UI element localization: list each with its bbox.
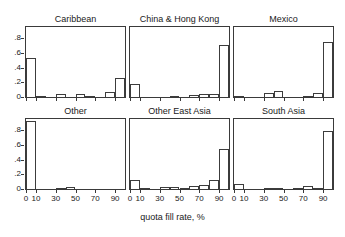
histogram-bar xyxy=(26,58,36,97)
histogram-bar xyxy=(130,180,140,189)
histogram-bar xyxy=(199,185,209,189)
bar-series xyxy=(234,27,333,97)
panel-title: South Asia xyxy=(233,106,334,117)
x-tick-mark xyxy=(56,190,57,193)
x-tick-mark xyxy=(26,190,27,193)
histogram-bar xyxy=(209,94,219,97)
x-tick-mark xyxy=(140,190,141,193)
x-tick-label: 0 xyxy=(24,194,28,203)
histogram-bar xyxy=(36,96,46,97)
histogram-bar xyxy=(234,184,244,189)
panel-title: Other xyxy=(25,106,126,117)
x-tick-mark xyxy=(76,98,77,101)
x-tick-label: 30 xyxy=(259,194,268,203)
histogram-bar xyxy=(189,95,199,97)
x-tick-mark xyxy=(244,190,245,193)
histogram-bar xyxy=(323,42,333,97)
x-tick-label: 90 xyxy=(215,194,224,203)
x-tick-mark xyxy=(323,190,324,193)
y-tick-label: .2 xyxy=(14,170,21,178)
x-axis-label: quota fill rate, % xyxy=(0,212,345,223)
x-tick-mark xyxy=(95,98,96,101)
x-tick-mark xyxy=(26,98,27,101)
x-tick-mark xyxy=(140,98,141,101)
y-tick-mark xyxy=(21,130,24,131)
panel-south-asia: South Asia01030507090 xyxy=(233,106,334,190)
y-tick-mark xyxy=(21,160,24,161)
x-tick-label: 70 xyxy=(195,194,204,203)
y-tick-label: .4 xyxy=(14,64,21,72)
x-tick-mark xyxy=(180,98,181,101)
x-tick-label: 70 xyxy=(299,194,308,203)
x-tick-mark xyxy=(160,190,161,193)
y-tick-mark xyxy=(21,174,24,175)
histogram-bar xyxy=(66,187,76,189)
x-tick-label: 90 xyxy=(111,194,120,203)
plot-area xyxy=(25,118,126,190)
x-tick-mark xyxy=(284,190,285,193)
histogram-bar xyxy=(199,94,209,97)
histogram-bar xyxy=(219,149,229,189)
y-tick-mark xyxy=(21,97,24,98)
x-tick-label: 0 xyxy=(232,194,236,203)
y-tick-label: .2 xyxy=(14,78,21,86)
y-tick-label: .8 xyxy=(14,34,21,42)
histogram-bar xyxy=(303,186,313,189)
histogram-bar xyxy=(56,94,66,97)
x-tick-mark xyxy=(95,190,96,193)
x-tick-label: 50 xyxy=(175,194,184,203)
histogram-bar xyxy=(274,188,284,189)
x-tick-label: 10 xyxy=(31,194,40,203)
histogram-bar xyxy=(293,188,303,189)
x-tick-label: 70 xyxy=(91,194,100,203)
y-tick-mark xyxy=(21,38,24,39)
y-tick-label: .6 xyxy=(14,49,21,57)
x-tick-mark xyxy=(199,98,200,101)
x-tick-mark xyxy=(219,190,220,193)
histogram-bar xyxy=(323,131,333,189)
bar-series xyxy=(26,27,125,97)
y-tick-mark xyxy=(21,68,24,69)
x-tick-mark xyxy=(264,98,265,101)
histogram-bar xyxy=(115,78,125,97)
histogram-bar xyxy=(170,187,180,189)
x-tick-label: 50 xyxy=(71,194,80,203)
x-tick-mark xyxy=(130,98,131,101)
panel-title: Caribbean xyxy=(25,14,126,25)
x-tick-mark xyxy=(219,98,220,101)
y-axis: 0.2.4.6.8 xyxy=(6,118,24,190)
x-tick-label: 90 xyxy=(319,194,328,203)
bar-series xyxy=(130,119,229,189)
histogram-bar xyxy=(105,92,115,97)
x-tick-label: 30 xyxy=(155,194,164,203)
x-tick-mark xyxy=(56,98,57,101)
histogram-bar xyxy=(26,121,36,189)
histogram-bar xyxy=(56,188,66,189)
x-tick-mark xyxy=(264,190,265,193)
x-tick-mark xyxy=(180,190,181,193)
bar-series xyxy=(26,119,125,189)
bar-series xyxy=(130,27,229,97)
x-tick-label: 10 xyxy=(239,194,248,203)
panel-mexico: Mexico xyxy=(233,14,334,98)
y-tick-mark xyxy=(21,189,24,190)
histogram-bar xyxy=(189,186,199,189)
panel-other: Other010305070900.2.4.6.8 xyxy=(25,106,126,190)
plot-area xyxy=(233,118,334,190)
plot-area xyxy=(129,26,230,98)
x-tick-mark xyxy=(244,98,245,101)
x-tick-mark xyxy=(199,190,200,193)
histogram-bar xyxy=(130,84,140,97)
histogram-bar xyxy=(274,91,284,97)
x-tick-mark xyxy=(130,190,131,193)
x-tick-label: 10 xyxy=(135,194,144,203)
histogram-bar xyxy=(160,187,170,189)
x-tick-mark xyxy=(36,98,37,101)
histogram-bar xyxy=(234,96,244,97)
x-tick-mark xyxy=(234,98,235,101)
x-tick-label: 0 xyxy=(128,194,132,203)
x-tick-mark xyxy=(303,190,304,193)
plot-area xyxy=(233,26,334,98)
x-tick-mark xyxy=(160,98,161,101)
y-tick-mark xyxy=(21,82,24,83)
